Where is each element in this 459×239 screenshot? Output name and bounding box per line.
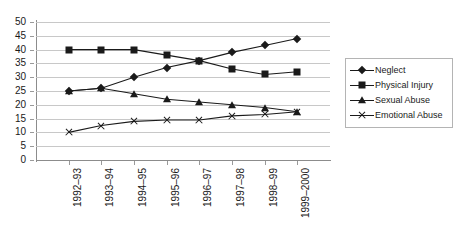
legend-item-emotional-abuse[interactable]: Emotional Abuse xyxy=(349,108,449,123)
y-tick-mark xyxy=(30,22,34,23)
legend-item-sexual-abuse[interactable]: Sexual Abuse xyxy=(349,93,449,108)
data-point-x xyxy=(130,117,139,126)
legend-marker-glyph xyxy=(359,82,366,89)
legend-marker-x-icon xyxy=(349,109,375,123)
data-point-square xyxy=(131,46,138,53)
x-tick-mark xyxy=(101,161,102,165)
legend-marker-glyph xyxy=(358,111,367,120)
x-tick-label: 1999–2000 xyxy=(301,168,311,218)
y-tick-mark xyxy=(30,119,34,120)
y-tick-mark xyxy=(30,77,34,78)
x-tick-label: 1993–94 xyxy=(105,168,115,207)
series-lines xyxy=(36,22,330,160)
y-tick-label: 40 xyxy=(15,45,26,55)
y-tick-mark xyxy=(30,91,34,92)
y-tick-label: 30 xyxy=(15,72,26,82)
y-tick-mark xyxy=(30,160,34,161)
y-tick-mark xyxy=(30,50,34,51)
y-tick-mark xyxy=(30,105,34,106)
legend-marker-triangle-icon xyxy=(349,94,375,108)
y-tick-label: 35 xyxy=(15,58,26,68)
y-tick-label: 15 xyxy=(15,114,26,124)
data-point-square xyxy=(163,52,170,59)
x-axis-line xyxy=(36,160,331,161)
y-tick-label: 10 xyxy=(15,127,26,137)
x-tick-label: 1998–99 xyxy=(269,168,279,207)
x-tick-label: 1994–95 xyxy=(138,168,148,207)
chart-legend: NeglectPhysical InjurySexual AbuseEmotio… xyxy=(345,58,453,128)
legend-item-label: Physical Injury xyxy=(375,80,433,91)
x-tick-label: 1997–98 xyxy=(236,168,246,207)
data-point-triangle xyxy=(195,98,203,105)
data-point-x xyxy=(260,110,269,119)
legend-item-neglect[interactable]: Neglect xyxy=(349,63,449,78)
y-tick-label: 50 xyxy=(15,17,26,27)
data-point-x xyxy=(97,121,106,130)
data-point-square xyxy=(98,46,105,53)
data-point-x xyxy=(162,115,171,124)
x-tick-mark xyxy=(265,161,266,165)
y-tick-mark xyxy=(30,132,34,133)
x-tick-mark xyxy=(134,161,135,165)
y-tick-label: 5 xyxy=(20,141,26,151)
y-tick-label: 20 xyxy=(15,100,26,110)
data-point-triangle xyxy=(228,101,236,108)
y-tick-label: 25 xyxy=(15,86,26,96)
legend-marker-square-icon xyxy=(349,79,375,93)
data-point-square xyxy=(294,68,301,75)
data-point-x xyxy=(195,115,204,124)
x-tick-mark xyxy=(69,161,70,165)
data-point-triangle xyxy=(65,87,73,94)
data-point-x xyxy=(293,107,302,116)
legend-item-label: Sexual Abuse xyxy=(375,95,430,106)
legend-item-label: Emotional Abuse xyxy=(375,110,443,121)
legend-item-physical-injury[interactable]: Physical Injury xyxy=(349,78,449,93)
data-point-triangle xyxy=(97,84,105,91)
y-axis: 05101520253035404550 xyxy=(0,0,34,239)
y-tick-label: 45 xyxy=(15,31,26,41)
x-tick-mark xyxy=(297,161,298,165)
legend-marker-diamond-icon xyxy=(349,64,375,78)
y-tick-mark xyxy=(30,63,34,64)
plot-area xyxy=(36,22,330,160)
x-tick-label: 1995–96 xyxy=(171,168,181,207)
data-point-square xyxy=(196,57,203,64)
data-point-square xyxy=(261,71,268,78)
x-tick-mark xyxy=(232,161,233,165)
y-tick-mark xyxy=(30,36,34,37)
legend-marker-glyph xyxy=(358,96,366,103)
x-tick-label: 1996–97 xyxy=(203,168,213,207)
data-point-square xyxy=(229,65,236,72)
y-tick-label: 0 xyxy=(20,155,26,165)
legend-item-label: Neglect xyxy=(375,65,406,76)
x-tick-mark xyxy=(199,161,200,165)
x-tick-label: 1992–93 xyxy=(73,168,83,207)
legend-marker-glyph xyxy=(358,66,366,74)
x-tick-mark xyxy=(167,161,168,165)
data-point-triangle xyxy=(130,90,138,97)
data-point-x xyxy=(228,111,237,120)
line-chart: 05101520253035404550 1992–931993–941994–… xyxy=(0,0,459,239)
data-point-x xyxy=(64,128,73,137)
data-point-triangle xyxy=(163,95,171,102)
data-point-square xyxy=(65,46,72,53)
y-tick-mark xyxy=(30,146,34,147)
